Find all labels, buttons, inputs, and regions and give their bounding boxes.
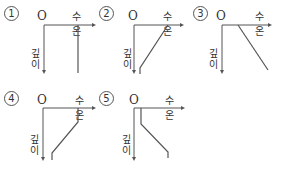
graph-lines <box>0 0 290 175</box>
temperature-profile-5 <box>141 108 168 158</box>
